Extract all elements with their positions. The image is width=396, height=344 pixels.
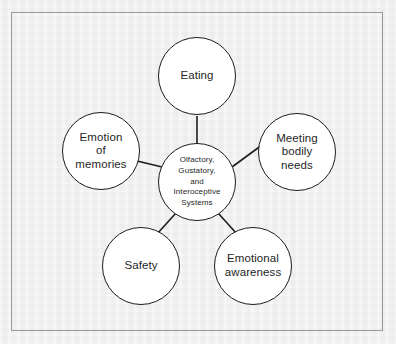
- node-meeting-bodily-needs[interactable]: Meeting bodily needs: [258, 113, 336, 191]
- node-olfactory-gustatory-interoceptive-systems[interactable]: Olfactory, Gustatory, and Interoceptive …: [158, 143, 236, 221]
- node-safety-label: Safety: [124, 259, 157, 273]
- node-eating-label: Eating: [180, 69, 213, 83]
- diagram-canvas: Eating Meeting bodily needs Emotional aw…: [0, 0, 396, 344]
- node-emotion-of-memories-label: Emotion of memories: [75, 131, 126, 172]
- node-meeting-bodily-needs-label: Meeting bodily needs: [276, 132, 318, 173]
- node-safety[interactable]: Safety: [102, 227, 180, 305]
- node-emotional-awareness-label: Emotional awareness: [225, 252, 282, 279]
- node-emotion-of-memories[interactable]: Emotion of memories: [62, 112, 140, 190]
- node-eating[interactable]: Eating: [158, 37, 236, 115]
- node-emotional-awareness[interactable]: Emotional awareness: [214, 227, 292, 305]
- node-layer: Eating Meeting bodily needs Emotional aw…: [0, 0, 396, 344]
- node-hub-label: Olfactory, Gustatory, and Interoceptive …: [173, 155, 220, 209]
